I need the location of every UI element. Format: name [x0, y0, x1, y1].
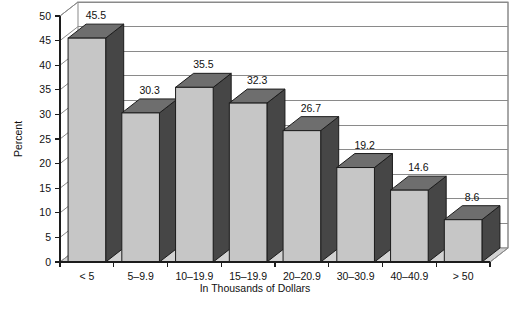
- bar-front-face: [283, 131, 321, 262]
- y-tick-label: 0: [45, 256, 51, 268]
- x-category-label: 15–19.9: [229, 270, 267, 282]
- x-category-label: 5–9.9: [127, 270, 153, 282]
- bar-side-face: [321, 117, 339, 262]
- bar-2: [122, 99, 178, 262]
- y-axis-title: Percent: [12, 121, 24, 157]
- bar-value-label: 30.3: [139, 84, 160, 96]
- y-tick-label: 40: [39, 59, 51, 71]
- y-tick-label: 5: [45, 231, 51, 243]
- bar-side-face: [428, 176, 446, 262]
- bar-5: [283, 117, 339, 262]
- bar-value-label: 14.6: [408, 161, 429, 173]
- y-tick-label: 50: [39, 10, 51, 22]
- bar-front-face: [391, 190, 429, 262]
- y-tick-label: 30: [39, 108, 51, 120]
- bar-front-face: [444, 220, 482, 262]
- chart-canvas: 50454035302520151050 < 55–9.910–19.915–1…: [0, 0, 512, 314]
- bar-front-face: [337, 168, 375, 262]
- bar-side-face: [213, 73, 231, 262]
- x-category-label: 40–40.9: [390, 270, 428, 282]
- bar-4: [229, 89, 285, 262]
- bar-chart: 50454035302520151050 < 55–9.910–19.915–1…: [0, 0, 512, 314]
- bar-side-face: [159, 99, 177, 262]
- x-axis-title: In Thousands of Dollars: [200, 282, 311, 294]
- bar-3: [176, 73, 232, 262]
- bar-front-face: [229, 103, 267, 262]
- y-tick-label: 10: [39, 206, 51, 218]
- bar-value-label: 26.7: [301, 102, 322, 114]
- bar-value-label: 45.5: [86, 9, 107, 21]
- y-tick-label: 15: [39, 182, 51, 194]
- x-category-label: > 50: [453, 270, 474, 282]
- y-tick-label: 20: [39, 157, 51, 169]
- bar-6: [337, 154, 393, 262]
- x-category-label: < 5: [79, 270, 94, 282]
- x-category-label: 10–19.9: [175, 270, 213, 282]
- bar-side-face: [374, 154, 392, 262]
- y-tick-label: 35: [39, 83, 51, 95]
- x-category-label: 20–20.9: [283, 270, 321, 282]
- bar-front-face: [122, 113, 160, 262]
- y-tick-label: 45: [39, 34, 51, 46]
- bar-value-label: 19.2: [354, 139, 375, 151]
- x-category-label: 30–30.9: [337, 270, 375, 282]
- bar-1: [68, 24, 124, 262]
- bar-8: [444, 206, 500, 262]
- bar-value-label: 32.3: [247, 74, 268, 86]
- bar-front-face: [176, 87, 214, 262]
- bar-value-label: 8.6: [465, 191, 480, 203]
- bar-side-face: [106, 24, 124, 262]
- bar-value-label: 35.5: [193, 58, 214, 70]
- y-tick-label: 25: [39, 133, 51, 145]
- bar-front-face: [68, 38, 106, 262]
- bar-side-face: [267, 89, 285, 262]
- bar-7: [391, 176, 447, 262]
